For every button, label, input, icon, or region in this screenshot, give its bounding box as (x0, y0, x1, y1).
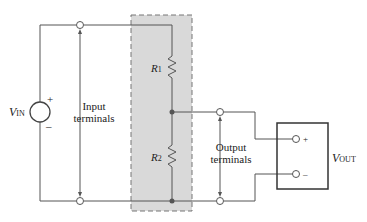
r2-label: R2 (151, 151, 162, 165)
meter-minus-label: – (303, 168, 308, 180)
input-terminal-top (77, 22, 84, 29)
circuit-diagram (0, 0, 367, 222)
source-minus-label: – (46, 120, 52, 132)
output-terminal-bottom (217, 198, 224, 205)
source-wire-top (40, 25, 76, 102)
meter-plus-label: + (303, 133, 308, 145)
meter-terminal-plus (293, 136, 300, 143)
output-terminal-top (217, 109, 224, 116)
source-wire-bottom (40, 122, 76, 201)
output-terminals-label: Outputterminals (201, 141, 261, 165)
voltage-source-icon (30, 102, 50, 122)
meter-terminal-minus (293, 171, 300, 178)
node-dot-mid (170, 110, 175, 115)
vin-label: VIN (9, 106, 25, 120)
node-dot-bottom (170, 199, 175, 204)
vout-label: VOUT (332, 152, 356, 166)
divider-box (131, 15, 192, 211)
input-terminals-label: Inputterminals (64, 100, 124, 124)
input-terminal-bottom (77, 198, 84, 205)
r1-label: R1 (151, 62, 162, 76)
source-plus-label: + (47, 93, 53, 105)
